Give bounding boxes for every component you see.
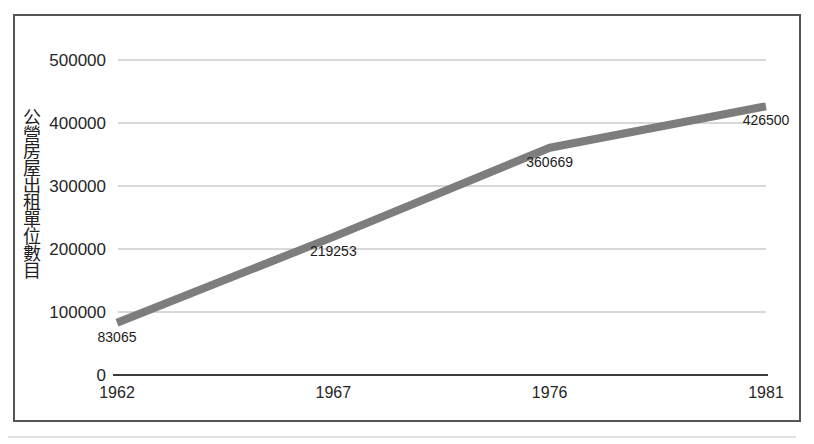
- x-tick-label: 1976: [532, 385, 568, 401]
- x-tick-label: 1967: [316, 385, 352, 401]
- y-tick-label: 300000: [0, 178, 106, 195]
- x-tick-label: 1962: [99, 385, 135, 401]
- y-tick-label: 100000: [0, 304, 106, 321]
- x-tick-label: 1981: [748, 385, 784, 401]
- chart-area: 公營房屋出租單位數目 50000040000030000020000010000…: [0, 0, 814, 444]
- data-point-label: 360669: [526, 155, 573, 169]
- scan-edge-artifact: [8, 436, 796, 438]
- data-point-label: 219253: [310, 244, 357, 258]
- y-tick-label: 0: [0, 367, 106, 384]
- data-point-label: 426500: [743, 113, 790, 127]
- y-tick-label: 200000: [0, 241, 106, 258]
- y-tick-label: 500000: [0, 52, 106, 69]
- line-chart-canvas: [0, 0, 814, 444]
- series-line: [117, 106, 766, 322]
- y-tick-label: 400000: [0, 115, 106, 132]
- data-point-label: 83065: [98, 330, 137, 344]
